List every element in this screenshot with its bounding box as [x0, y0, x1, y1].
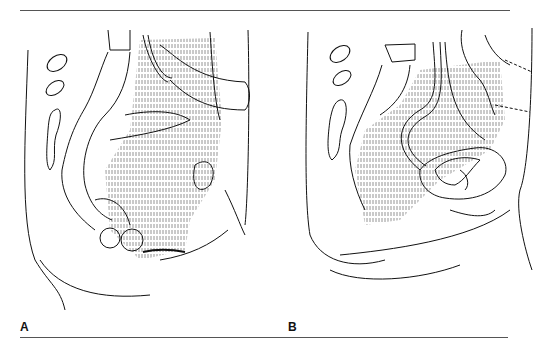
bottom-rule	[20, 337, 508, 338]
panel-label-b: B	[288, 320, 297, 334]
panel-label-a: A	[20, 320, 29, 334]
panel-b-illustration	[270, 20, 547, 315]
panel-a-illustration	[0, 20, 270, 315]
top-rule	[20, 10, 510, 11]
